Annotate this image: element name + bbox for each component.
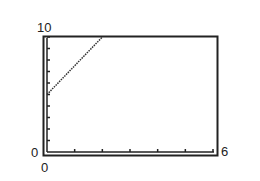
y-min-label: 0 xyxy=(31,146,38,159)
x-min-label: 0 xyxy=(41,161,48,174)
plot-frame xyxy=(44,37,218,156)
x-max-label: 6 xyxy=(221,145,228,158)
y-max-label: 10 xyxy=(37,21,51,34)
axis-ticks xyxy=(47,37,213,152)
data-line xyxy=(47,37,102,95)
